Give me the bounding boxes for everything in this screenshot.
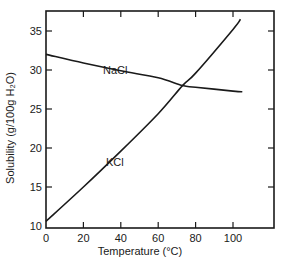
x-tick-label: 40 xyxy=(115,232,127,244)
plot-frame xyxy=(46,11,274,228)
y-tick-label: 35 xyxy=(30,25,42,37)
y-tick-label: 10 xyxy=(30,220,42,232)
y-tick-label: 15 xyxy=(30,181,42,193)
x-tick-label: 60 xyxy=(152,232,164,244)
series-label-kcl: KCl xyxy=(106,156,124,168)
x-tick-label: 0 xyxy=(43,232,49,244)
series-line-kcl xyxy=(46,19,241,221)
x-tick-label: 100 xyxy=(224,232,242,244)
solubility-chart: 020406080100101520253035 NaCl KCl Temper… xyxy=(0,0,284,269)
y-tick-label: 20 xyxy=(30,142,42,154)
y-axis-title: Solubility (g/100g H₂O) xyxy=(4,72,16,184)
x-axis-title: Temperature (°C) xyxy=(98,245,182,257)
series-label-nacl: NaCl xyxy=(103,64,127,76)
x-tick-label: 20 xyxy=(77,232,89,244)
x-tick-label: 80 xyxy=(189,232,201,244)
plot-border xyxy=(46,11,274,228)
series-line-nacl xyxy=(46,54,242,91)
data-series xyxy=(46,19,242,221)
axis-ticks xyxy=(46,11,274,228)
y-tick-label: 30 xyxy=(30,64,42,76)
y-tick-label: 25 xyxy=(30,103,42,115)
